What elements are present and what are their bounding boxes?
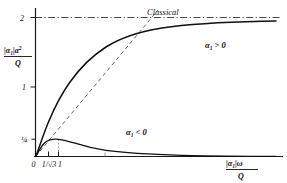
y-axis-label: |α1|a2 Q [4,45,32,68]
svg-text:|α1|ω: |α1|ω [226,159,243,169]
y-tick-label-quarter: ¼ [21,135,27,144]
figure-chart-root: 2 1 ¼ 0 1/√3 1 α1 > 0 α1 < 0 Classical |… [0,0,287,183]
x-tick-label-0: 0 [32,160,36,169]
svg-text:α1 < 0: α1 < 0 [126,127,148,138]
curve-alpha1-positive [36,21,276,156]
x-tick-label-1-over-sqrt3: 1/√3 [42,160,57,169]
annotation-alpha-rel-neg: < 0 [133,127,147,137]
y-tick-label-1: 1 [22,83,26,92]
annotation-classical: Classical [147,7,179,17]
annotation-alpha1-negative: α1 < 0 [126,127,148,138]
chart-canvas: 2 1 ¼ 0 1/√3 1 α1 > 0 α1 < 0 Classical |… [0,0,287,183]
annotation-alpha1-positive: α1 > 0 [205,40,227,51]
y-label-denominator: Q [15,59,21,68]
x-label-denominator: Q [238,172,244,181]
annotation-alpha-rel-pos: > 0 [212,40,226,50]
x-axis-label: |α1|ω Q [226,159,258,181]
svg-text:α1 > 0: α1 > 0 [205,40,227,51]
x-label-omega: ω [237,159,243,168]
y-label-sup: 2 [18,45,22,51]
svg-text:|α1|a2: |α1|a2 [4,45,22,56]
curve-alpha1-negative [36,139,276,156]
x-tick-label-1: 1 [58,160,62,169]
y-tick-label-2: 2 [20,14,24,23]
